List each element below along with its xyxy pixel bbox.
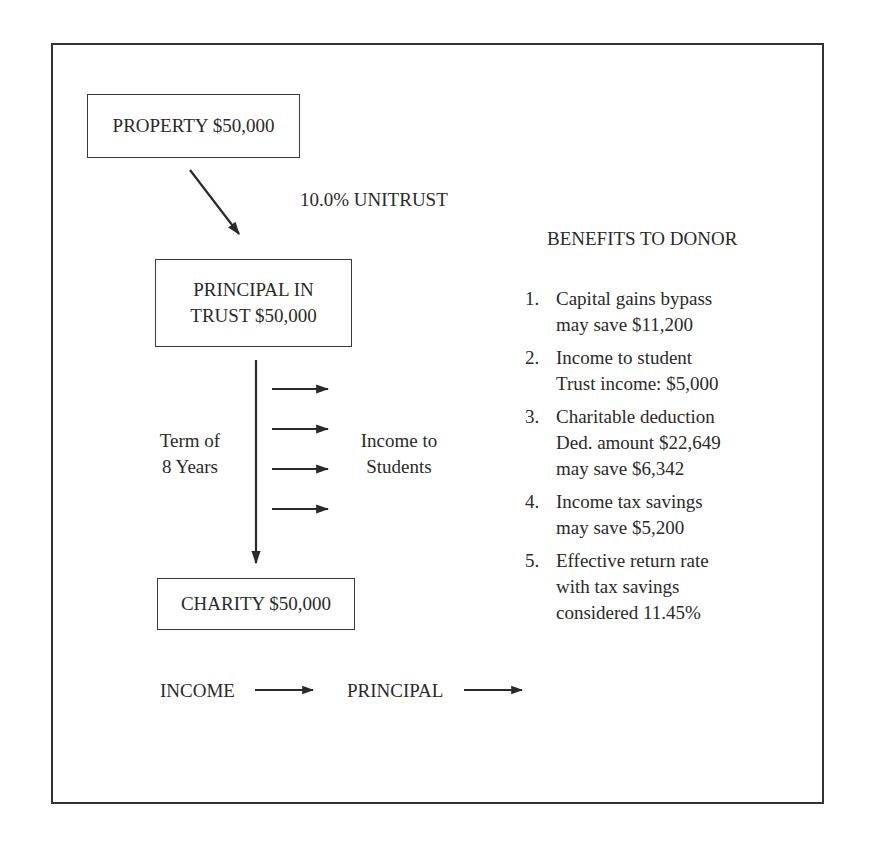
benefit-number: 4. bbox=[525, 489, 556, 541]
benefit-line: may save $6,342 bbox=[556, 456, 721, 482]
income-label-line-2: Students bbox=[344, 454, 454, 480]
income-to-students-label: Income to Students bbox=[344, 428, 454, 480]
principal-in-trust-box: PRINCIPAL IN TRUST $50,000 bbox=[155, 259, 352, 347]
benefit-line: may save $5,200 bbox=[556, 515, 703, 541]
benefit-line: Charitable deduction bbox=[556, 404, 721, 430]
property-box-label: PROPERTY $50,000 bbox=[113, 113, 275, 139]
principal-box-line-2: TRUST $50,000 bbox=[190, 303, 316, 329]
charity-box-label: CHARITY $50,000 bbox=[181, 591, 331, 617]
legend-income-label: INCOME bbox=[160, 678, 235, 704]
benefit-item: 2. Income to student Trust income: $5,00… bbox=[525, 345, 815, 397]
benefit-number: 2. bbox=[525, 345, 556, 397]
benefit-number: 3. bbox=[525, 404, 556, 482]
benefit-item: 5. Effective return rate with tax saving… bbox=[525, 548, 815, 626]
trust-type-label: 10.0% UNITRUST bbox=[300, 187, 448, 213]
benefit-item: 1. Capital gains bypass may save $11,200 bbox=[525, 286, 815, 338]
benefit-number: 1. bbox=[525, 286, 556, 338]
benefit-line: considered 11.45% bbox=[556, 600, 709, 626]
benefit-line: Trust income: $5,000 bbox=[556, 371, 718, 397]
benefit-line: Ded. amount $22,649 bbox=[556, 430, 721, 456]
benefits-list: 1. Capital gains bypass may save $11,200… bbox=[525, 286, 815, 633]
term-label: Term of 8 Years bbox=[142, 428, 238, 480]
property-box: PROPERTY $50,000 bbox=[87, 94, 300, 158]
income-label-line-1: Income to bbox=[344, 428, 454, 454]
benefit-line: Capital gains bypass bbox=[556, 286, 712, 312]
charity-box: CHARITY $50,000 bbox=[157, 578, 355, 630]
term-label-line-2: 8 Years bbox=[142, 454, 238, 480]
benefit-line: with tax savings bbox=[556, 574, 709, 600]
benefit-line: Income to student bbox=[556, 345, 718, 371]
benefit-item: 4. Income tax savings may save $5,200 bbox=[525, 489, 815, 541]
principal-box-line-1: PRINCIPAL IN bbox=[193, 277, 314, 303]
term-label-line-1: Term of bbox=[142, 428, 238, 454]
benefit-number: 5. bbox=[525, 548, 556, 626]
benefits-heading: BENEFITS TO DONOR bbox=[547, 226, 737, 252]
benefit-line: may save $11,200 bbox=[556, 312, 712, 338]
benefit-item: 3. Charitable deduction Ded. amount $22,… bbox=[525, 404, 815, 482]
benefit-line: Effective return rate bbox=[556, 548, 709, 574]
legend-principal-label: PRINCIPAL bbox=[347, 678, 443, 704]
benefit-line: Income tax savings bbox=[556, 489, 703, 515]
